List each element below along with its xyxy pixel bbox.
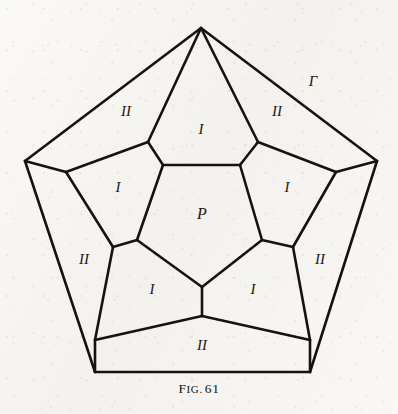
inner-edge-lower-right [202, 240, 262, 287]
middle-edge-5 [293, 247, 310, 340]
middle-edge-10 [95, 247, 113, 340]
figure-caption: FIG.61 [0, 381, 398, 397]
middle-edge-7 [202, 316, 310, 340]
face-label-i-right: I [284, 179, 291, 195]
face-label-i-left: I [115, 179, 122, 195]
middle-edge-3 [336, 161, 377, 172]
face-label-ii-upperleft: II [120, 103, 132, 119]
inner-edge-upper-left [137, 165, 163, 240]
inner-edge-lower-left [137, 240, 202, 287]
middle-edge-2 [258, 142, 336, 172]
face-label-gamma: Γ [308, 73, 319, 89]
face-label-ii-right: II [314, 251, 326, 267]
inner-edge-upper-right [240, 165, 262, 240]
outer-pentagon-edges [25, 28, 377, 372]
face-label-p: P [196, 205, 207, 222]
face-label-i-top: I [198, 121, 205, 137]
face-label-ii-bottom: II [196, 337, 208, 353]
face-label-i-bottomleft: I [149, 281, 156, 297]
middle-edge-12 [25, 161, 66, 172]
face-label-i-bottomright: I [250, 281, 257, 297]
spoke-right [262, 240, 293, 247]
middle-edge-13 [66, 142, 148, 172]
spoke-top-left [148, 142, 163, 165]
outer-edge-top-left [25, 28, 201, 161]
caption-word: IG. [187, 383, 203, 395]
middle-edge-11 [66, 172, 113, 247]
middle-edge-8 [95, 316, 202, 340]
caption-number: 61 [205, 381, 220, 396]
inner-pentagon-edges [137, 165, 262, 287]
face-label-ii-left: II [78, 251, 90, 267]
figure-page: P I I I I I II II II II II Γ FIG.61 [0, 0, 398, 414]
face-label-ii-upperright: II [271, 103, 283, 119]
spoke-top-right [240, 142, 258, 165]
spoke-left [113, 240, 137, 247]
middle-edge-14 [148, 28, 201, 142]
outer-edge-top-right [201, 28, 377, 161]
middle-edge-4 [293, 172, 336, 247]
caption-prefix: F [179, 381, 187, 396]
dodecahedron-schlegel-diagram: P I I I I I II II II II II Γ [0, 0, 398, 382]
middle-edge-1 [201, 28, 258, 142]
